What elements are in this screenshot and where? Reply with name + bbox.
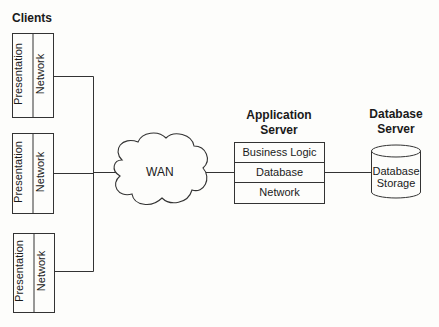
- db-server-title: Database Server: [360, 107, 432, 137]
- app-server-layers: Business Logic Database Network: [234, 142, 325, 204]
- diagram-canvas: [0, 0, 439, 327]
- wan-label: WAN: [146, 165, 174, 179]
- app-server-title-line1: Application: [234, 108, 324, 123]
- app-server-title: Application Server: [234, 108, 324, 138]
- client-2-presentation-label: Presentation: [12, 135, 24, 210]
- db-storage-label: Database Storage: [371, 165, 421, 189]
- client-3-network-label: Network: [35, 237, 47, 306]
- clients-title: Clients: [12, 11, 52, 26]
- layer-network: Network: [234, 186, 325, 198]
- client-connectors: [54, 77, 118, 272]
- db-storage-line1: Database: [371, 165, 421, 177]
- layer-database: Database: [234, 166, 325, 178]
- client-1-presentation-label: Presentation: [12, 37, 24, 112]
- client-2-network-label: Network: [34, 138, 46, 207]
- db-storage-line2: Storage: [371, 177, 421, 189]
- client-3-presentation-label: Presentation: [13, 234, 25, 309]
- app-server-title-line2: Server: [234, 123, 324, 138]
- layer-business-logic: Business Logic: [234, 146, 325, 158]
- client-1-network-label: Network: [34, 40, 46, 109]
- db-server-title-line1: Database: [360, 107, 432, 122]
- db-server-title-line2: Server: [360, 122, 432, 137]
